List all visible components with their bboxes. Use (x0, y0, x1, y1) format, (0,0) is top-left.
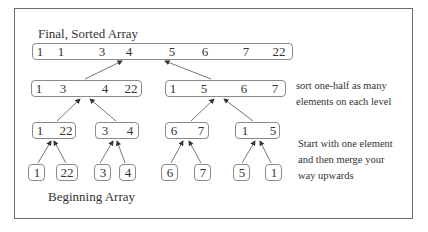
merge-arrow (100, 141, 113, 163)
merge-arrow (242, 141, 255, 163)
merge-arrow (165, 61, 211, 79)
merge-arrow (117, 141, 125, 163)
merge-arrows (0, 0, 428, 232)
merge-arrow (54, 141, 66, 163)
merge-arrow (191, 99, 214, 121)
merge-arrow (90, 99, 116, 121)
merge-arrow (224, 99, 253, 121)
merge-arrow (171, 141, 183, 163)
merge-arrow (85, 61, 122, 79)
merge-arrow (57, 99, 80, 121)
merge-arrow (38, 141, 51, 163)
merge-arrow (260, 141, 271, 163)
merge-arrow (189, 141, 201, 163)
